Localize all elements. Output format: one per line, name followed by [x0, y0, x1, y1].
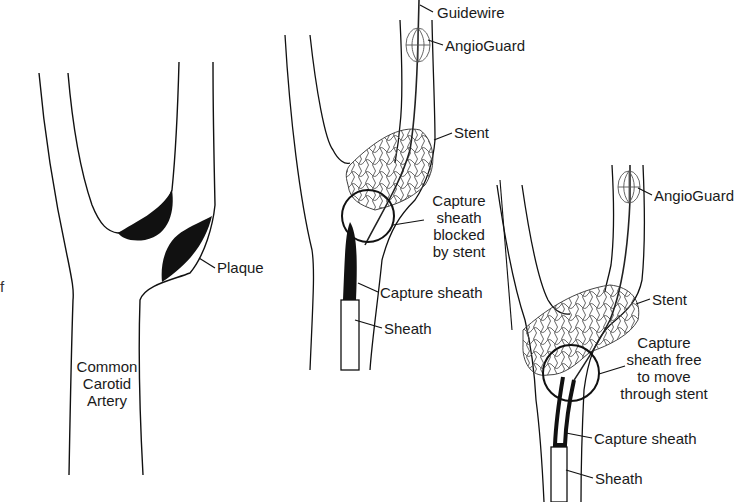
angioguard-label-panel-3: AngioGuard — [654, 187, 734, 204]
label-line: sheath free — [616, 351, 712, 368]
sheath-label-panel-3: Sheath — [595, 470, 643, 487]
sheath-panel-3 — [551, 447, 567, 502]
capture-sheath-label-panel-2: Capture sheath — [380, 284, 483, 301]
label-line: Common — [74, 358, 140, 375]
plaque-upper — [118, 190, 173, 241]
label-line: to move — [616, 368, 712, 385]
label-line: blocked — [424, 226, 494, 243]
capture-sheath-label-panel-3: Capture sheath — [594, 430, 697, 447]
common-carotid-artery-label: Common Carotid Artery — [74, 358, 140, 409]
guidewire-label: Guidewire — [437, 4, 505, 21]
stent-label-panel-2: Stent — [454, 124, 489, 141]
sheath-label-panel-2: Sheath — [384, 320, 432, 337]
label-line: Capture — [424, 192, 494, 209]
label-line: through stent — [616, 385, 712, 402]
label-line: sheath — [424, 209, 494, 226]
panel-1-artery — [39, 62, 215, 475]
free-callout-label: Capture sheath free to move through sten… — [616, 334, 712, 402]
plaque-leader — [199, 258, 215, 268]
label-line: Capture — [616, 334, 712, 351]
label-line: Carotid — [74, 375, 140, 392]
angioguard-panel-2 — [406, 28, 430, 62]
angioguard-panel-3 — [618, 171, 640, 203]
blocked-callout-label: Capture sheath blocked by stent — [424, 192, 494, 260]
label-line: by stent — [424, 243, 494, 260]
capture-sheath-panel-3 — [555, 377, 574, 445]
plaque-label: Plaque — [217, 259, 264, 276]
stent-label-panel-3: Stent — [652, 291, 687, 308]
angioguard-label-panel-2: AngioGuard — [445, 37, 525, 54]
cropped-text-fragment: f — [0, 278, 4, 295]
sheath-panel-2 — [341, 300, 359, 370]
label-line: Artery — [74, 392, 140, 409]
